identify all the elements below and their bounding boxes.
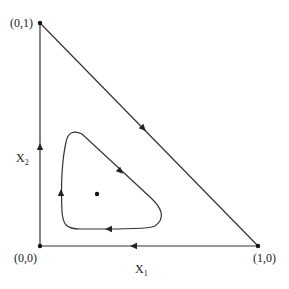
orbit-arrow-down-right-icon — [116, 167, 125, 176]
x-axis-letter: X — [135, 262, 144, 276]
vertex-origin-label: (0,0) — [14, 252, 37, 264]
y-axis-letter: X — [16, 151, 25, 165]
vertex-top-label: (0,1) — [10, 17, 33, 29]
orbit-arrow-left-icon — [105, 226, 112, 232]
closed-orbit — [61, 132, 161, 229]
bottom-arrow-icon — [130, 243, 137, 249]
diagram-svg — [0, 0, 289, 289]
left-arrow-icon — [37, 143, 43, 150]
orbit-arrow-up-icon — [58, 189, 64, 196]
vertex-top-point — [38, 21, 42, 25]
hypotenuse-edge — [40, 23, 258, 246]
y-axis-label: X2 — [16, 152, 29, 167]
phase-diagram: (0,1) (0,0) (1,0) X2 X1 — [0, 0, 289, 289]
vertex-right-label: (1,0) — [253, 252, 276, 264]
vertex-origin-point — [38, 244, 42, 248]
y-axis-subscript: 2 — [25, 158, 29, 167]
x-axis-label: X1 — [135, 263, 148, 278]
vertex-right-point — [256, 244, 260, 248]
interior-fixed-point — [95, 192, 99, 196]
x-axis-subscript: 1 — [144, 269, 148, 278]
